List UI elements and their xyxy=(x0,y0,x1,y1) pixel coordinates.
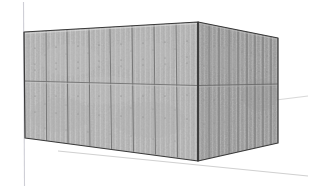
model-canvas[interactable] xyxy=(0,0,309,189)
model-viewport[interactable]: concrete-tilt-up-building Rectangular co… xyxy=(0,0,309,189)
front-face[interactable] xyxy=(20,18,205,168)
right-face[interactable] xyxy=(194,18,284,168)
